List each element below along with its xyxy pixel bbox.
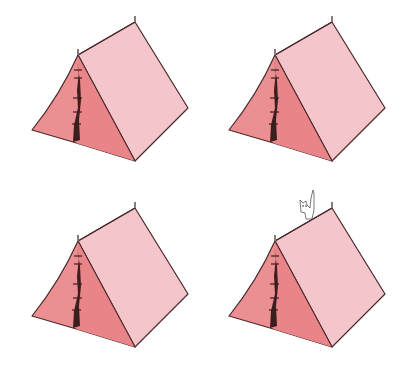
tent-top-left <box>32 16 188 161</box>
tent-bottom-right <box>229 202 385 347</box>
tent-bottom-left <box>32 202 188 347</box>
tent-illustration <box>0 0 405 368</box>
tent-top-right <box>229 16 385 161</box>
cat-icon <box>300 190 314 219</box>
